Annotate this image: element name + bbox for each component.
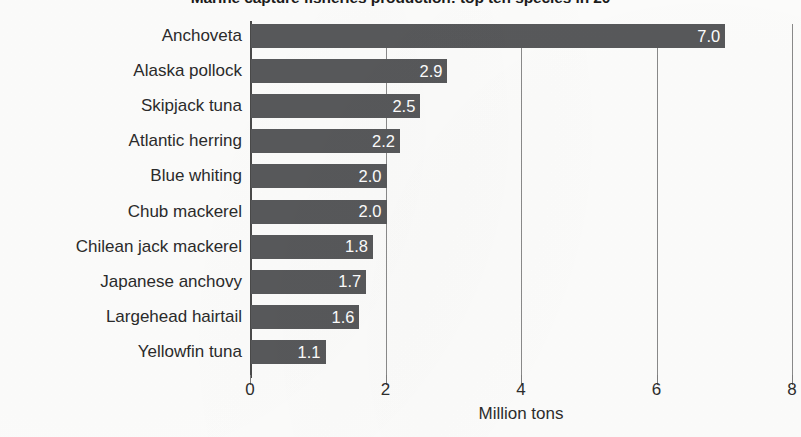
bar-value-label: 2.0 [359,168,387,185]
bar-value-label: 1.1 [298,344,326,361]
bar-value-label: 2.0 [359,203,387,220]
bar-value-label: 2.2 [372,133,400,150]
tick-label-8: 8 [787,380,796,400]
category-label: Largehead hairtail [0,305,242,329]
category-label: Blue whiting [0,164,242,188]
category-label: Chilean jack mackerel [0,235,242,259]
bar-value-label: 7.0 [697,28,725,45]
category-label: Alaska pollock [0,59,242,83]
bar-value-label: 2.9 [420,63,448,80]
category-label: Atlantic herring [0,129,242,153]
bar: 1.8 [251,235,373,259]
bar: 2.5 [251,94,420,118]
bar: 1.7 [251,270,366,294]
bar: 2.2 [251,129,400,153]
bar: 1.6 [251,305,359,329]
bar-value-label: 2.5 [392,98,420,115]
bar: 2.0 [251,164,387,188]
bar: 2.9 [251,59,447,83]
bar-value-label: 1.7 [338,273,366,290]
gridline-6 [657,24,658,375]
bar: 2.0 [251,200,387,224]
tick-label-0: 0 [245,380,254,400]
x-axis-title: Million tons [250,404,792,424]
bar: 7.0 [251,24,725,48]
category-label: Anchoveta [0,24,242,48]
category-label: Yellowfin tuna [0,340,242,364]
tick-label-2: 2 [381,380,390,400]
category-label: Japanese anchovy [0,270,242,294]
category-label: Chub mackerel [0,200,242,224]
bar: 1.1 [251,340,326,364]
gridline-4 [521,24,522,375]
tick-label-6: 6 [652,380,661,400]
bar-value-label: 1.6 [331,309,359,326]
gridline-8 [792,24,793,375]
tick-label-4: 4 [516,380,525,400]
category-label: Skipjack tuna [0,94,242,118]
chart-figure: Marine capture fisheries production: top… [0,0,801,437]
plot-area: 7.02.92.52.22.02.01.81.71.61.1 [250,24,792,375]
bar-value-label: 1.8 [345,238,373,255]
category-axis-labels: AnchovetaAlaska pollockSkipjack tunaAtla… [0,24,242,375]
chart-title: Marine capture fisheries production: top… [0,0,801,9]
